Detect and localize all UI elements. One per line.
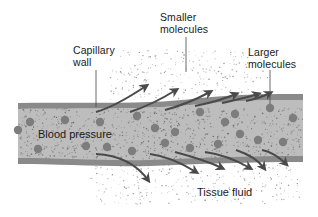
smaller-molecules-label: Smaller molecules xyxy=(160,11,208,35)
capillary-illustration xyxy=(0,0,318,217)
blood-pressure-label: Blood pressure xyxy=(38,128,112,140)
larger-molecules-label: Larger molecules xyxy=(248,46,296,70)
tissue-fluid-label: Tissue fluid xyxy=(197,186,252,198)
capillary-filtration-diagram: Capillary wall Smaller molecules Larger … xyxy=(0,0,318,217)
capillary-wall-label: Capillary wall xyxy=(73,44,115,68)
